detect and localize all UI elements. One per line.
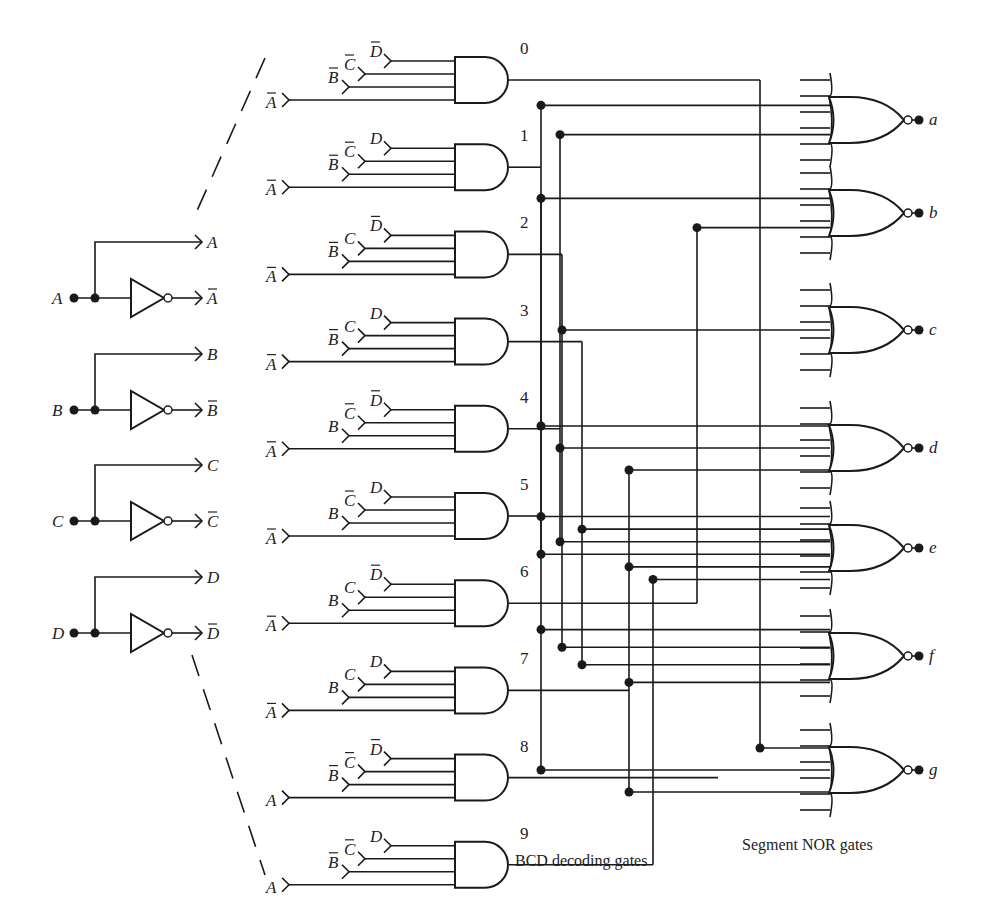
input-chevron-icon: [384, 577, 391, 591]
segment-gates-caption: Segment NOR gates: [742, 836, 873, 854]
gate-input-label-d: D: [369, 391, 383, 410]
gate-input-label-a: A: [265, 703, 277, 722]
gate-input-label-c: C: [344, 142, 356, 161]
input-chevron-icon: [384, 141, 391, 155]
input-chevron-icon: [342, 429, 349, 443]
true-output-label: A: [206, 233, 218, 252]
input-chevron-icon: [282, 616, 289, 630]
gate-input-label-b: B: [328, 155, 339, 174]
gate-input-label-b: B: [328, 678, 339, 697]
not-gate-icon: [131, 614, 164, 652]
gate-input-label-a: A: [265, 529, 277, 548]
gate-input-label-d: D: [369, 478, 383, 497]
input-chevron-icon: [342, 80, 349, 94]
complement-output-label: B: [207, 401, 218, 420]
inverter-a: AAA: [51, 233, 218, 317]
and-gate-9: DCBA9: [265, 824, 529, 897]
bcd-decoding-gates: DCBA0DCBA1DCBA2DCBA3DCBA4DCBA5DCBA6DCBA7…: [265, 39, 529, 897]
digit-label: 4: [520, 388, 529, 407]
input-chevron-icon: [384, 54, 391, 68]
input-chevron-icon: [342, 778, 349, 792]
gate-input-label-a: A: [265, 616, 277, 635]
digit-label: 8: [520, 737, 529, 756]
digit-label: 7: [520, 649, 529, 668]
inverter-b: BBB: [52, 345, 218, 429]
and-gate-8: DCBA8: [265, 737, 529, 810]
input-chevron-icon: [384, 316, 391, 330]
and-gate-7: DCBA7: [265, 649, 529, 722]
gate-input-label-b: B: [328, 591, 339, 610]
input-chevron-icon: [358, 503, 365, 517]
not-gate-icon: [131, 502, 164, 540]
segment-output-dot: [915, 326, 924, 335]
segment-label-e: e: [929, 538, 937, 557]
gate-input-label-c: C: [344, 665, 356, 684]
digit-label: 5: [520, 475, 529, 494]
true-output-label: C: [207, 456, 219, 475]
inversion-bubble: [904, 444, 912, 452]
inversion-bubble: [904, 326, 912, 334]
input-chevron-icon: [384, 403, 391, 417]
gate-input-label-b: B: [328, 504, 339, 523]
input-label-c: C: [52, 512, 64, 531]
gate-input-label-d: D: [369, 304, 383, 323]
input-chevron-icon: [358, 154, 365, 168]
not-gate-icon: [131, 391, 164, 429]
gate-input-label-d: D: [369, 827, 383, 846]
input-chevron-icon: [384, 490, 391, 504]
input-chevron-icon: [358, 590, 365, 604]
and-gate-4: DCBA4: [265, 388, 529, 461]
input-chevron-icon: [384, 228, 391, 242]
true-output-label: D: [206, 568, 220, 587]
and-gate-1: DCBA1: [265, 126, 529, 199]
input-bracket: [829, 166, 832, 260]
and-gate-6: DCBA6: [265, 562, 529, 635]
input-label-d: D: [51, 624, 65, 643]
input-chevron-icon: [342, 690, 349, 704]
input-bracket: [829, 501, 832, 595]
and-gate-5: DCBA5: [265, 475, 529, 548]
digit-label: 3: [520, 301, 529, 320]
inverter-c: CCC: [52, 456, 219, 540]
input-chevron-icon: [282, 93, 289, 107]
input-chevron-icon: [282, 442, 289, 456]
gate-input-label-d: D: [369, 42, 383, 61]
segment-output-dot: [915, 766, 924, 775]
gate-input-label-c: C: [344, 753, 356, 772]
nor-gate-a: a: [829, 73, 938, 167]
input-chevron-icon: [384, 664, 391, 678]
gate-input-label-a: A: [265, 878, 277, 897]
nor-gate-icon: [829, 747, 904, 793]
input-chevron-icon: [342, 603, 349, 617]
segment-label-d: d: [929, 438, 938, 457]
nor-gate-icon: [829, 633, 904, 679]
segment-label-a: a: [929, 110, 938, 129]
dashed-line-top: [192, 58, 265, 222]
gate-input-label-b: B: [328, 242, 339, 261]
input-label-b: B: [52, 401, 63, 420]
and-gate-icon: [455, 144, 508, 190]
gate-input-label-c: C: [344, 404, 356, 423]
inversion-bubble: [904, 116, 912, 124]
gate-input-label-c: C: [344, 491, 356, 510]
input-chevron-icon: [282, 791, 289, 805]
and-gate-icon: [455, 755, 508, 801]
inversion-bubble: [904, 766, 912, 774]
input-chevron-icon: [358, 329, 365, 343]
gate-input-label-d: D: [369, 740, 383, 759]
input-chevron-icon: [282, 180, 289, 194]
nor-gate-icon: [829, 97, 904, 143]
gate-input-label-c: C: [344, 55, 356, 74]
and-gate-icon: [455, 319, 508, 365]
input-chevron-icon: [358, 765, 365, 779]
and-gate-icon: [455, 231, 508, 277]
digit-label: 9: [520, 824, 529, 843]
gate-input-label-b: B: [328, 417, 339, 436]
inversion-bubble: [904, 652, 912, 660]
gate-input-label-b: B: [328, 330, 339, 349]
segment-output-dot: [915, 652, 924, 661]
input-chevron-icon: [342, 516, 349, 530]
input-inverter-section: AAABBBCCCDDD: [51, 233, 220, 652]
and-gate-icon: [455, 580, 508, 626]
complement-output-label: A: [206, 289, 218, 308]
